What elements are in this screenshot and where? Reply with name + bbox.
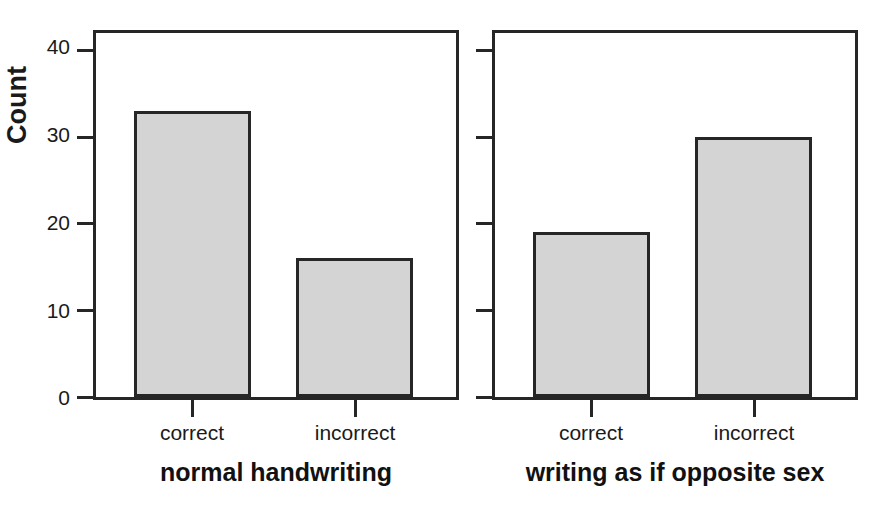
bar-chart-figure: Count 40 30 20 10 0 correct incorrect no… — [0, 0, 887, 506]
x-tick-right-correct — [590, 400, 593, 417]
bar-left-correct — [134, 111, 251, 397]
bar-left-incorrect — [296, 258, 413, 397]
x-tick-label-left-incorrect: incorrect — [270, 421, 440, 445]
y-tick-label-0: 0 — [14, 386, 70, 410]
bar-right-incorrect — [695, 137, 812, 397]
y-tick-10 — [77, 309, 93, 312]
y-tick-right-0 — [476, 396, 492, 399]
y-tick-right-40 — [476, 49, 492, 52]
plot-area-left — [96, 33, 456, 397]
x-tick-label-right-incorrect: incorrect — [669, 421, 839, 445]
y-tick-label-30: 30 — [14, 123, 70, 147]
y-tick-right-10 — [476, 309, 492, 312]
bar-right-correct — [533, 232, 650, 397]
x-tick-label-left-correct: correct — [107, 421, 277, 445]
x-tick-right-incorrect — [753, 400, 756, 417]
y-tick-30 — [77, 136, 93, 139]
plot-area-right — [495, 33, 855, 397]
panel-opposite-sex — [492, 30, 858, 400]
panel-title-normal-handwriting: normal handwriting — [93, 458, 459, 487]
y-tick-40 — [77, 49, 93, 52]
panel-title-opposite-sex: writing as if opposite sex — [470, 458, 880, 487]
x-tick-left-correct — [191, 400, 194, 417]
y-tick-label-20: 20 — [14, 211, 70, 235]
y-tick-right-20 — [476, 222, 492, 225]
panel-normal-handwriting — [93, 30, 459, 400]
y-tick-20 — [77, 222, 93, 225]
y-tick-0 — [77, 396, 93, 399]
x-tick-left-incorrect — [354, 400, 357, 417]
y-tick-label-10: 10 — [14, 299, 70, 323]
x-tick-label-right-correct: correct — [506, 421, 676, 445]
y-tick-label-40: 40 — [14, 35, 70, 59]
y-tick-right-30 — [476, 136, 492, 139]
